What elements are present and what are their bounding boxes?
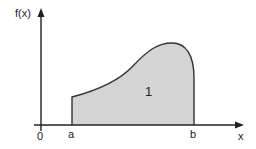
y-axis-label: f(x) xyxy=(15,7,31,19)
shaded-area xyxy=(72,43,194,125)
x-axis-arrow-icon xyxy=(235,122,244,129)
upper-bound-label: b xyxy=(190,128,196,140)
lower-bound-label: a xyxy=(68,128,75,140)
y-axis-arrow-icon xyxy=(38,8,45,17)
area-label: 1 xyxy=(145,84,152,99)
x-axis-label: x xyxy=(238,130,244,142)
pdf-area-diagram: f(x) x 0 a b 1 xyxy=(0,0,256,149)
origin-label: 0 xyxy=(37,130,43,142)
